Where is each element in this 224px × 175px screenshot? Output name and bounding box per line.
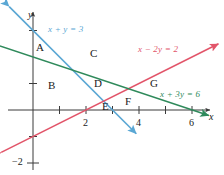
region-label-a: A (36, 42, 44, 53)
equation-label-blue: x + y = 3 (48, 25, 83, 34)
x-tick-label-4: 4 (136, 118, 141, 128)
plot-canvas (0, 0, 224, 175)
region-label-c: C (90, 48, 97, 59)
region-label-f: F (125, 96, 131, 107)
region-label-b: B (48, 80, 55, 91)
y-axis-label: y (28, 10, 32, 20)
y-tick-label-minus2: −2 (12, 157, 23, 167)
region-label-g: G (150, 78, 158, 89)
region-label-d: D (94, 78, 102, 89)
equation-label-green: x + 3y = 6 (160, 90, 200, 99)
x-tick-label-2: 2 (83, 118, 88, 128)
equation-label-red: x − 2y = 2 (138, 45, 178, 54)
graph-figure: y x 2 4 6 −2 x + y = 3 x − 2y = 2 x + 3y… (0, 0, 224, 175)
x-axis-label: x (209, 112, 213, 122)
x-tick-label-6: 6 (189, 118, 194, 128)
region-label-e: E (102, 101, 109, 112)
